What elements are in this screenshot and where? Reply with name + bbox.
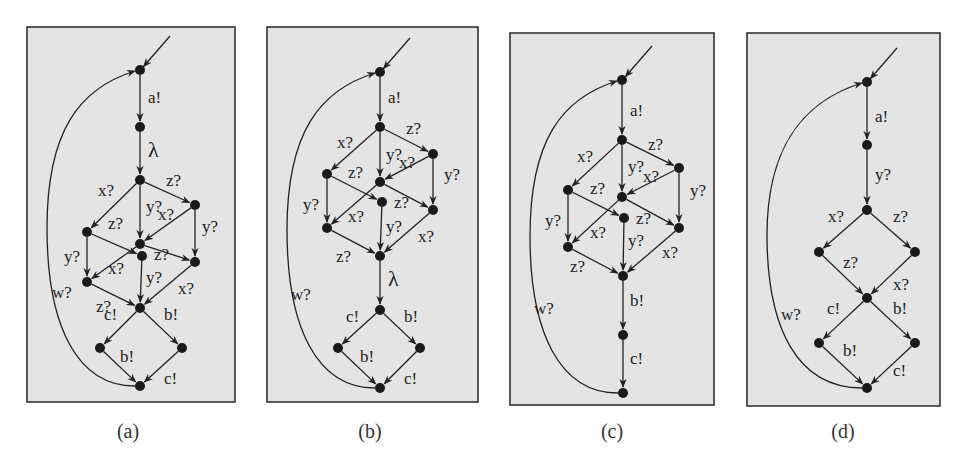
edge-label: c! xyxy=(164,369,177,388)
state-node xyxy=(375,383,385,393)
edge-label: x? xyxy=(418,227,434,246)
state-node xyxy=(862,205,872,215)
state-node xyxy=(135,122,145,132)
state-node xyxy=(862,293,872,303)
state-node xyxy=(617,192,627,202)
edge-label: x? xyxy=(348,207,364,226)
edge-label: y? xyxy=(690,181,706,200)
edge-label: y? xyxy=(202,217,218,236)
state-node xyxy=(619,213,629,223)
edge-label: x? xyxy=(590,223,606,242)
state-node xyxy=(910,247,920,257)
edge-label: b! xyxy=(630,291,644,310)
edge-label: λ xyxy=(148,137,159,162)
figure: a!λx?z?y?x?z?y?y?z?x?y?x?c!b!b!c!w?z?a!x… xyxy=(0,0,964,464)
edge-label: z? xyxy=(570,257,585,276)
edge-label: x? xyxy=(893,275,909,294)
edge-label: b! xyxy=(843,341,857,360)
state-node xyxy=(375,122,385,132)
edge-label: w? xyxy=(291,285,311,304)
edge-label: c! xyxy=(893,361,906,380)
state-node xyxy=(415,343,425,353)
panel-frame xyxy=(267,27,478,402)
edge-label: z? xyxy=(108,214,123,233)
edge-label: x? xyxy=(178,279,194,298)
state-node xyxy=(135,65,145,75)
edge-label: z? xyxy=(96,297,111,316)
state-node xyxy=(322,223,332,233)
panel-d: a!y?x?z?z?x?c!b!b!c!w? xyxy=(747,33,940,406)
state-node xyxy=(137,251,147,261)
state-node xyxy=(862,140,872,150)
caption-d: (d) xyxy=(831,420,854,443)
edge-label: z? xyxy=(590,179,605,198)
state-node xyxy=(82,227,92,237)
edge-label: w? xyxy=(52,283,72,302)
edge-label: z? xyxy=(636,209,651,228)
edge-label: x? xyxy=(643,167,659,186)
state-node xyxy=(618,271,628,281)
state-node xyxy=(910,338,920,348)
edge-label: x? xyxy=(158,205,174,224)
state-node xyxy=(617,135,627,145)
edge-label: c! xyxy=(630,349,643,368)
edge-label: y? xyxy=(146,268,162,287)
edge-label: y? xyxy=(386,217,402,236)
state-node xyxy=(190,257,200,267)
state-node xyxy=(375,305,385,315)
state-node xyxy=(563,185,573,195)
edge-label: b! xyxy=(893,299,907,318)
edge-label: b! xyxy=(360,347,374,366)
state-node xyxy=(814,247,824,257)
state-node xyxy=(674,163,684,173)
edge-label: z? xyxy=(406,119,421,138)
edge-label: x? xyxy=(108,259,124,278)
state-node xyxy=(190,200,200,210)
panel-a: a!λx?z?y?x?z?y?y?z?x?y?x?c!b!b!c!w?z? xyxy=(27,27,235,402)
edge-label: z? xyxy=(154,245,169,264)
edge-label: y? xyxy=(545,211,561,230)
edge-label: a! xyxy=(875,107,888,126)
state-node xyxy=(177,343,187,353)
state-node xyxy=(377,197,387,207)
edge-label: c! xyxy=(346,307,359,326)
panel-b: a!x?z?y?x?z?y?y?z?x?y?z?x?λc!b!b!c!w? xyxy=(267,27,478,402)
edge-label: x? xyxy=(577,147,593,166)
edge-label: a! xyxy=(148,88,161,107)
edge-label: z? xyxy=(893,207,908,226)
transition-edge xyxy=(623,223,624,270)
state-node xyxy=(617,75,627,85)
state-node xyxy=(428,149,438,159)
edge-label: x? xyxy=(828,207,844,226)
state-node xyxy=(82,277,92,287)
edge-label: z? xyxy=(348,163,363,182)
state-node xyxy=(135,381,145,391)
state-node xyxy=(428,205,438,215)
edge-label: z? xyxy=(394,193,409,212)
state-node xyxy=(135,175,145,185)
state-node xyxy=(322,169,332,179)
edge-label: z? xyxy=(336,247,351,266)
state-node xyxy=(862,383,872,393)
state-node xyxy=(814,338,824,348)
state-node xyxy=(333,343,343,353)
edge-label: x? xyxy=(337,133,353,152)
edge-label: c! xyxy=(404,369,417,388)
state-node xyxy=(95,343,105,353)
edge-label: z? xyxy=(843,253,858,272)
diagram-canvas: a!λx?z?y?x?z?y?y?z?x?y?x?c!b!b!c!w?z?a!x… xyxy=(0,0,964,464)
edge-label: b! xyxy=(120,347,134,366)
edge-label: x? xyxy=(662,243,678,262)
state-node xyxy=(618,388,628,398)
panel-c: a!x?z?y?x?z?y?y?z?x?y?z?x?b!c!w? xyxy=(510,33,714,405)
edge-label: c! xyxy=(827,299,840,318)
edge-label: y? xyxy=(64,247,80,266)
state-node xyxy=(618,330,628,340)
edge-label: y? xyxy=(628,157,644,176)
edge-label: b! xyxy=(404,307,418,326)
edge-label: x? xyxy=(98,181,114,200)
edge-label: y? xyxy=(303,195,319,214)
edge-label: y? xyxy=(875,165,891,184)
edge-label: λ xyxy=(388,266,399,291)
edge-label: w? xyxy=(534,299,554,318)
